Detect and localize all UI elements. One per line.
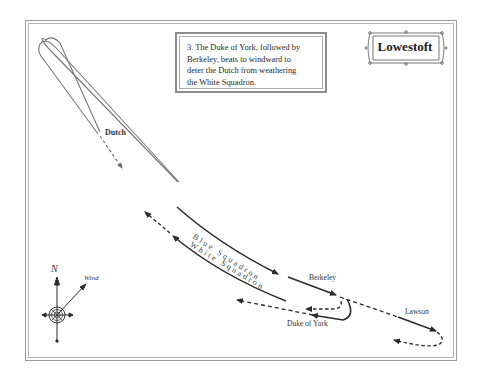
caption-line-1: 3. The Duke of York, followed by [187,42,318,54]
dutch-fleet-track [42,38,178,182]
map-title: Lowestoft [367,39,443,55]
label-dutch: Dutch [105,128,126,137]
label-duke-of-york: Duke of York [287,319,328,328]
dutch-dashed-track [100,136,122,168]
label-berkeley: Berkeley [309,273,336,282]
lawson-dashed [340,297,398,317]
lawson-turn [394,332,442,346]
wind-arrow [57,286,84,315]
lawson-track [398,317,436,331]
duke-of-york-inner-dashed [306,301,341,309]
compass-wind-label: Wind [84,274,98,282]
compass-north-label: N [51,263,58,274]
white-squadron-dashed [145,212,170,233]
label-lawson: Lawson [405,307,429,316]
map-title-box: Lowestoft [367,33,443,63]
compass-rose [42,277,86,342]
caption-box: 3. The Duke of York, followed by Berkele… [175,32,327,93]
duke-of-york-long-dashed [237,300,313,315]
caption-line-4: the White Squadron. [187,77,318,89]
caption-line-2: Berkeley, beats to windward to [187,54,318,66]
caption-line-3: deter the Dutch from weathering [187,65,318,77]
